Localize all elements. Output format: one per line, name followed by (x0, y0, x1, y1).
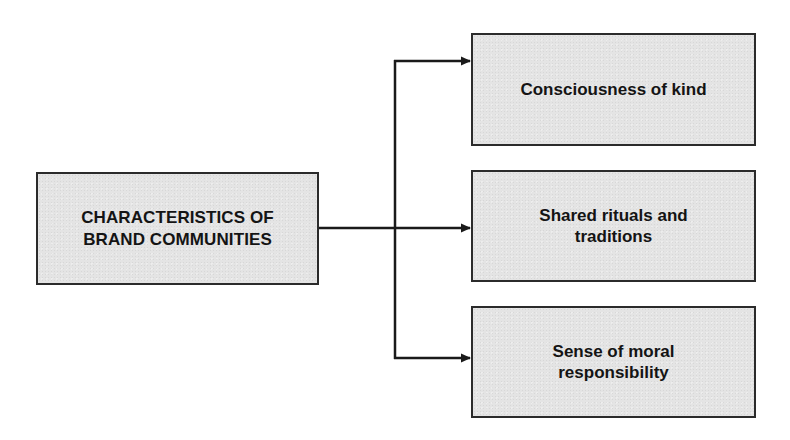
child-1-label-line-1: Consciousness of kind (520, 79, 706, 100)
child-2-label-line-1: Shared rituals and (539, 205, 687, 226)
child-node-label: Shared rituals and traditions (539, 205, 687, 248)
child-node-shared-rituals: Shared rituals and traditions (471, 170, 756, 282)
root-node-label: CHARACTERISTICS OF BRAND COMMUNITIES (81, 207, 274, 250)
child-3-label-line-2: responsibility (553, 362, 675, 383)
child-node-moral-responsibility: Sense of moral responsibility (471, 306, 756, 418)
child-node-label: Sense of moral responsibility (553, 341, 675, 384)
child-3-label-line-1: Sense of moral (553, 341, 675, 362)
diagram-canvas: CHARACTERISTICS OF BRAND COMMUNITIES Con… (0, 0, 790, 440)
root-node-brand-communities: CHARACTERISTICS OF BRAND COMMUNITIES (36, 172, 319, 285)
root-label-line-2: BRAND COMMUNITIES (81, 229, 274, 250)
child-node-consciousness-of-kind: Consciousness of kind (471, 33, 756, 146)
child-2-label-line-2: traditions (539, 226, 687, 247)
root-label-line-1: CHARACTERISTICS OF (81, 207, 274, 228)
child-node-label: Consciousness of kind (520, 79, 706, 100)
